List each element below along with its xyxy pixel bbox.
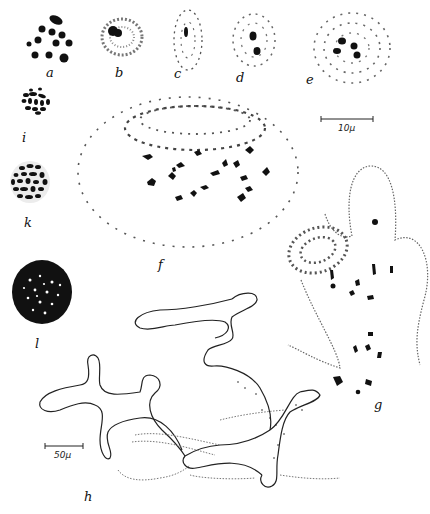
panel-d-drawing <box>233 14 275 66</box>
panel-a-drawing <box>27 13 73 62</box>
panel-c-drawing <box>174 10 202 70</box>
panel-label-d: d <box>236 71 244 84</box>
panel-label-g: g <box>374 398 382 411</box>
scale-label-10: 10μ <box>338 124 355 133</box>
panel-i-drawing <box>19 87 50 115</box>
panel-label-f: f <box>158 258 163 271</box>
scale-label-50: 50μ <box>54 451 71 460</box>
panel-label-e: e <box>306 73 314 86</box>
panel-label-i: i <box>22 131 26 144</box>
panel-k-drawing <box>10 161 50 203</box>
scale-bar-10 <box>321 116 373 122</box>
panel-g-drawing <box>282 166 427 394</box>
figure-plate <box>0 0 430 514</box>
panel-label-h: h <box>84 490 92 503</box>
panel-label-l: l <box>35 337 39 350</box>
panel-e-drawing <box>314 13 390 83</box>
panel-label-c: c <box>174 67 181 80</box>
scale-bar-50 <box>45 443 83 449</box>
panel-h-drawing <box>40 293 340 487</box>
panel-l-drawing <box>12 260 72 324</box>
panel-label-b: b <box>115 66 123 79</box>
panel-label-a: a <box>46 66 54 79</box>
panel-f-drawing <box>78 97 298 247</box>
panel-b-drawing <box>102 19 142 55</box>
panel-label-k: k <box>24 216 32 229</box>
